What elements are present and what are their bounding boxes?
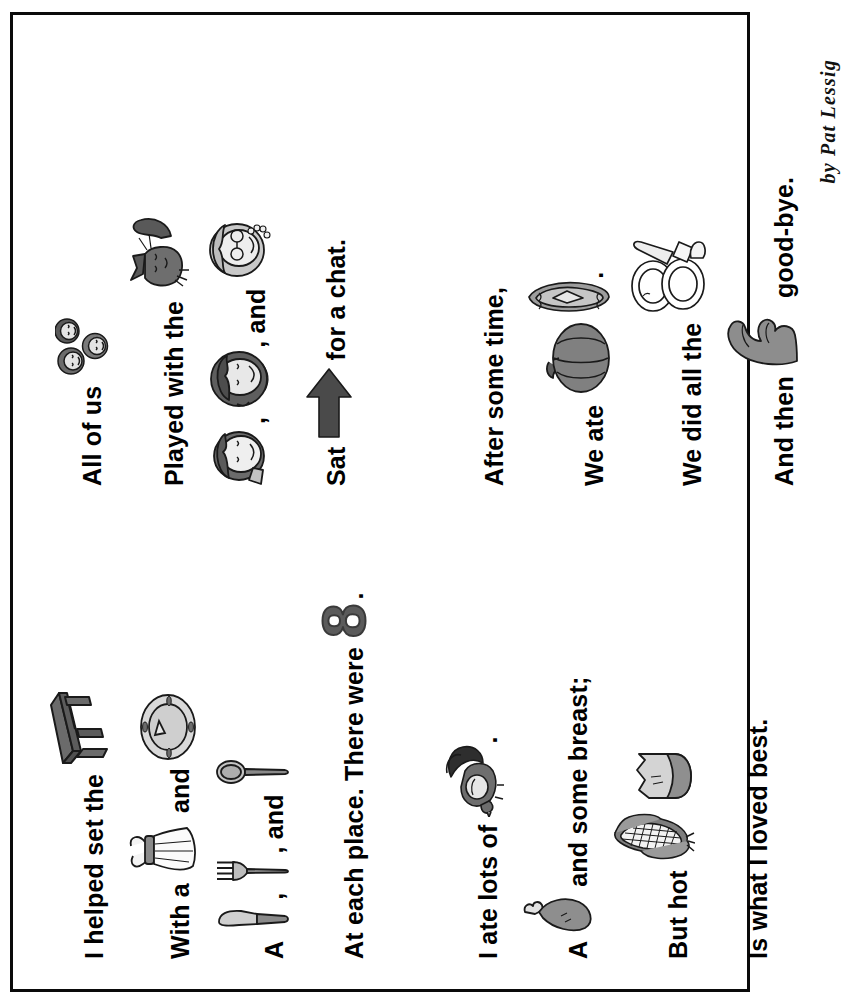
napkin-icon bbox=[127, 820, 197, 876]
line-text: . bbox=[582, 271, 611, 278]
line-text: A bbox=[566, 940, 595, 958]
poem-columns: I helped set the bbox=[39, 45, 729, 959]
butter-icon bbox=[633, 748, 695, 804]
line-text: . bbox=[476, 736, 505, 743]
line-text: A bbox=[262, 940, 291, 958]
line-text: , bbox=[262, 892, 291, 899]
drumstick-icon bbox=[521, 893, 595, 933]
line-text: But hot bbox=[666, 870, 695, 959]
poem-line: After some time, bbox=[447, 45, 511, 486]
dishes-icon bbox=[627, 231, 709, 315]
poem-line: We ate bbox=[527, 45, 611, 486]
worksheet-page: I helped set the bbox=[10, 12, 750, 992]
fork-icon bbox=[213, 853, 291, 885]
cat-icon bbox=[125, 212, 191, 294]
children-faces-icon bbox=[55, 304, 109, 378]
line-text: And then bbox=[772, 376, 801, 486]
knife-icon bbox=[215, 899, 291, 933]
pie-icon bbox=[527, 278, 611, 314]
byline: by Pat Lessig bbox=[817, 45, 842, 486]
poem-line: We did all the bbox=[627, 45, 709, 486]
line-text: I ate lots of bbox=[476, 824, 505, 959]
worksheet-content: I helped set the bbox=[13, 15, 747, 989]
arrow-right-icon bbox=[305, 367, 353, 439]
poem-line: At each place. There were 8 . bbox=[307, 518, 371, 959]
line-text: Is what I loved best. bbox=[746, 718, 775, 958]
poem-line: All of us bbox=[45, 45, 109, 486]
line-text: We ate bbox=[582, 404, 611, 485]
corn-icon bbox=[611, 811, 695, 863]
line-text: I helped set the bbox=[82, 773, 111, 958]
right-column: All of us bbox=[39, 45, 729, 492]
stanza-four: After some time, We ate bbox=[447, 45, 817, 486]
line-text: We did all the bbox=[680, 322, 709, 485]
pumpkin-icon bbox=[545, 321, 611, 397]
line-text: With a bbox=[168, 883, 197, 959]
poem-line: A , bbox=[213, 518, 291, 959]
waving-hand-icon bbox=[725, 305, 801, 369]
poem-line: But hot bbox=[611, 518, 695, 959]
poem-line: , bbox=[207, 45, 273, 486]
line-text: and bbox=[168, 767, 197, 812]
grandma-face-icon bbox=[207, 217, 273, 281]
line-text: good-bye. bbox=[772, 176, 801, 297]
number-eight: 8 bbox=[318, 599, 371, 639]
line-text: Played with the bbox=[162, 301, 191, 486]
stanza-two: I ate lots of bbox=[441, 518, 791, 959]
line-text: . bbox=[342, 592, 371, 599]
left-column: I helped set the bbox=[39, 502, 729, 959]
line-text: After some time, bbox=[482, 286, 511, 485]
boy-face-icon bbox=[209, 424, 273, 486]
poem-line: With a bbox=[127, 518, 197, 959]
line-text: , and bbox=[262, 794, 291, 853]
poem-line: A bbox=[521, 518, 595, 959]
line-text: All of us bbox=[80, 385, 109, 485]
line-text: , bbox=[244, 416, 273, 423]
line-text: , and bbox=[244, 288, 273, 347]
line-text: At each place. There were bbox=[342, 646, 371, 958]
girl-face-icon bbox=[207, 347, 273, 409]
poem-line: Played with the bbox=[125, 45, 191, 486]
poem-line: And then bbox=[725, 45, 801, 486]
plate-icon bbox=[139, 692, 197, 760]
line-text: and some breast; bbox=[566, 676, 595, 886]
table-icon bbox=[45, 688, 111, 766]
line-text: for a chat. bbox=[324, 238, 353, 360]
poem-line: I helped set the bbox=[45, 518, 111, 959]
turkey-icon bbox=[443, 743, 505, 817]
line-text: Sat bbox=[324, 446, 353, 486]
stanza-one: I helped set the bbox=[45, 518, 387, 959]
poem-line: I ate lots of bbox=[441, 518, 505, 959]
poem-line: Is what I loved best. bbox=[711, 518, 775, 959]
stanza-three: All of us bbox=[45, 45, 369, 486]
poem-line: Sat for a chat. bbox=[289, 45, 353, 486]
spoon-icon bbox=[215, 755, 291, 787]
